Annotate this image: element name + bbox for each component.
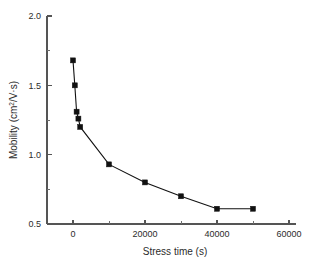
x-tick-label: 60000	[276, 229, 301, 239]
tick-labels: 0.51.01.52.00200004000060000	[28, 11, 301, 239]
data-point-marker: 1500, 1.26	[76, 116, 81, 121]
data-point-marker: 20000, 0.8	[143, 180, 148, 185]
x-axis-title: Stress time (s)	[143, 246, 207, 257]
y-tick-label: 2.0	[28, 11, 41, 21]
data-point-marker: 1000, 1.31	[74, 109, 79, 114]
x-tick-label: 0	[70, 229, 75, 239]
y-tick-label: 1.5	[28, 81, 41, 91]
data-point-marker: 30000, 0.7	[179, 194, 184, 199]
data-point-marker: 500, 1.5	[72, 83, 77, 88]
plot-canvas: 0.51.01.52.00200004000060000 0, 1.68500,…	[0, 0, 316, 265]
data-point-marker: 40000, 0.61	[215, 206, 220, 211]
x-tick-label: 20000	[132, 229, 157, 239]
x-tick-label: 40000	[204, 229, 229, 239]
data-point-marker: 10000, 0.93	[107, 162, 112, 167]
y-axis-title-group: Mobility (cm2/V·s)	[8, 81, 20, 159]
mobility-vs-stress-time-chart: 0.51.01.52.00200004000060000 0, 1.68500,…	[0, 0, 316, 265]
y-tick-label: 0.5	[28, 219, 41, 229]
y-axis-title: Mobility (cm2/V·s)	[8, 81, 20, 159]
data-point-marker: 50000, 0.61	[251, 206, 256, 211]
data-point-marker: 2000, 1.2	[78, 124, 83, 129]
y-tick-label: 1.0	[28, 150, 41, 160]
chart-figure-page: 0.51.01.52.00200004000060000 0, 1.68500,…	[0, 0, 316, 265]
tick-marks	[47, 16, 289, 224]
series-line	[73, 60, 253, 208]
data-series-mobility: 0, 1.68500, 1.51000, 1.311500, 1.262000,…	[71, 58, 256, 211]
data-point-marker: 0, 1.68	[71, 58, 76, 63]
